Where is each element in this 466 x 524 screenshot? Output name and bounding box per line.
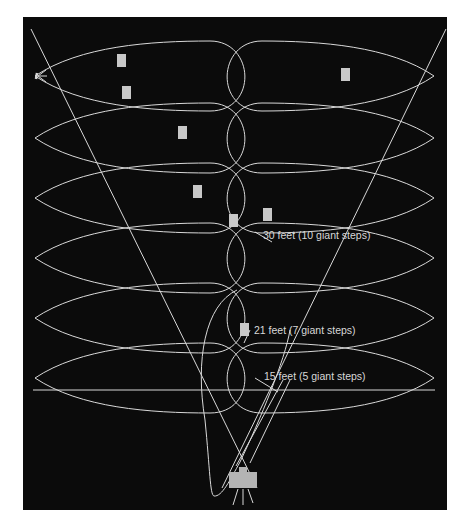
marker — [122, 86, 131, 99]
left-lobe — [35, 103, 245, 173]
left-lobe — [35, 163, 245, 233]
marker — [240, 323, 249, 336]
label-30ft: 30 feet (10 giant steps) — [263, 229, 370, 241]
marker — [341, 68, 350, 81]
right-lobe — [227, 163, 434, 233]
label-15ft: 15 feet (5 giant steps) — [264, 370, 366, 382]
left-view-line — [31, 29, 257, 488]
marker — [193, 185, 202, 198]
right-lobe — [227, 41, 434, 111]
right-view-line — [222, 29, 446, 488]
marker — [117, 54, 126, 67]
markers — [117, 54, 350, 336]
lobe-diagram — [0, 0, 466, 524]
marker — [229, 214, 238, 227]
ray-line — [236, 380, 283, 466]
label-21ft: 21 feet (7 giant steps) — [254, 324, 356, 336]
field-of-view-lines — [31, 29, 446, 496]
camera-icon — [229, 467, 257, 505]
marker — [263, 208, 272, 221]
left-lobe — [35, 223, 245, 293]
left-lobe — [35, 283, 245, 353]
right-lobe — [227, 283, 434, 353]
marker — [178, 126, 187, 139]
right-lobe — [227, 103, 434, 173]
left-lobe — [35, 343, 245, 413]
